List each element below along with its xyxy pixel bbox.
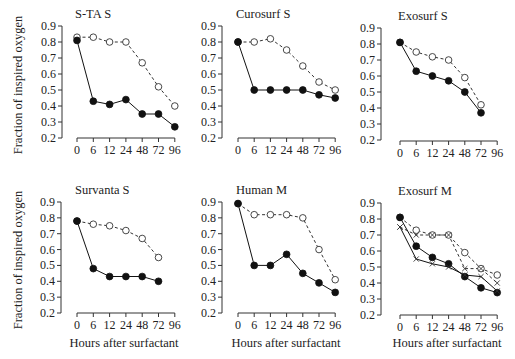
- y-tick-label: 0.9: [201, 195, 216, 209]
- x-tick-label: 96: [169, 318, 181, 332]
- data-point-filled: [299, 270, 306, 277]
- y-tick-label: 0.9: [201, 19, 216, 33]
- y-tick-label: 0.2: [201, 131, 216, 145]
- y-tick-label: 0.6: [360, 69, 375, 83]
- x-tick-label: 72: [475, 320, 487, 334]
- x-tick-label: 72: [313, 318, 325, 332]
- data-point-filled: [267, 87, 274, 94]
- x-tick-label: 96: [169, 143, 181, 157]
- y-tick-label: 0.7: [201, 51, 216, 65]
- y-tick-label: 0.2: [40, 306, 55, 320]
- panel-survanta-s: Survanta S0.90.80.70.60.50.40.30.2061224…: [40, 183, 181, 332]
- data-point-open: [429, 54, 436, 61]
- y-tick-label: 0.7: [360, 53, 375, 67]
- data-point-open: [155, 254, 162, 261]
- data-point-filled: [478, 284, 485, 291]
- data-point-filled: [123, 273, 130, 280]
- data-point-filled: [283, 251, 290, 258]
- panel-title: Curosurf S: [236, 7, 291, 21]
- panel-title: Exosurf M: [398, 184, 452, 198]
- data-point-filled: [397, 39, 404, 46]
- x-tick-label: 0: [74, 318, 80, 332]
- data-point-open: [332, 87, 339, 94]
- data-point-filled: [251, 87, 258, 94]
- y-tick-label: 0.5: [41, 83, 56, 97]
- data-point-open: [283, 47, 290, 54]
- x-tick-label: 24: [120, 143, 132, 157]
- data-point-open: [462, 74, 469, 81]
- y-tick-label: 0.3: [41, 115, 56, 129]
- y-tick-label: 0.9: [40, 195, 55, 209]
- x-tick-label: 0: [397, 146, 403, 160]
- x-tick-label: 96: [491, 146, 503, 160]
- data-point-open: [316, 246, 323, 253]
- y-tick-label: 0.4: [201, 99, 216, 113]
- data-point-open: [106, 222, 113, 229]
- data-point-open: [478, 102, 485, 109]
- data-point-open: [267, 36, 274, 43]
- data-point-open: [123, 39, 130, 46]
- y-tick-label: 0.9: [360, 21, 375, 35]
- data-point-open: [139, 235, 146, 242]
- x-tick-label: 24: [443, 146, 455, 160]
- y-tick-label: 0.6: [41, 67, 56, 81]
- x-tick-label: 48: [297, 318, 309, 332]
- data-point-filled: [139, 273, 146, 280]
- x-tick-label: 6: [90, 143, 96, 157]
- y-tick-label: 0.8: [41, 35, 56, 49]
- x-tick-label: 0: [74, 143, 80, 157]
- data-point-filled: [123, 96, 130, 103]
- x-tick-label: 48: [136, 143, 148, 157]
- data-point-open: [494, 272, 501, 279]
- data-point-filled: [461, 89, 468, 96]
- data-point-open: [106, 39, 113, 46]
- y-tick-label: 0.4: [40, 274, 55, 288]
- data-point-filled: [445, 77, 452, 84]
- data-point-filled: [283, 87, 290, 94]
- y-tick-label: 0.7: [201, 227, 216, 241]
- data-point-filled: [429, 254, 436, 261]
- series-line-open-dashed: [400, 42, 481, 104]
- x-tick-label: 12: [264, 143, 276, 157]
- y-tick-label: 0.5: [40, 258, 55, 272]
- y-tick-label: 0.9: [360, 196, 375, 210]
- data-point-open: [283, 211, 290, 218]
- data-point-filled: [316, 279, 323, 286]
- data-point-open: [172, 103, 179, 110]
- panel-title: Survanta S: [75, 183, 130, 197]
- data-point-open: [413, 49, 420, 56]
- x-tick-label: 12: [104, 318, 116, 332]
- x-tick-label: 6: [251, 143, 257, 157]
- y-tick-label: 0.2: [201, 306, 216, 320]
- data-point-filled: [155, 278, 162, 285]
- data-point-filled: [106, 101, 113, 108]
- y-tick-label: 0.4: [360, 276, 375, 290]
- data-point-filled: [251, 262, 258, 269]
- data-point-open: [155, 84, 162, 91]
- panel-title: Human M: [236, 183, 287, 197]
- data-point-filled: [413, 68, 420, 75]
- data-point-filled: [478, 109, 485, 116]
- y-tick-label: 0.7: [360, 228, 375, 242]
- series-line-filled-solid: [77, 221, 159, 281]
- x-axis-title-2: Hours after surfactant: [232, 336, 342, 350]
- y-tick-label: 0.5: [360, 85, 375, 99]
- y-tick-label: 0.6: [40, 243, 55, 257]
- series-line-filled-solid: [400, 42, 481, 112]
- data-point-filled: [397, 214, 404, 221]
- data-point-open: [300, 63, 307, 70]
- x-tick-label: 24: [443, 320, 455, 334]
- data-point-filled: [155, 111, 162, 118]
- data-point-filled: [74, 37, 81, 44]
- x-tick-label: 48: [297, 143, 309, 157]
- y-tick-label: 0.5: [201, 83, 216, 97]
- data-point-filled: [429, 73, 436, 80]
- x-tick-label: 12: [426, 320, 438, 334]
- data-point-open: [90, 221, 97, 228]
- data-point-filled: [235, 200, 242, 207]
- y-tick-label: 0.8: [40, 211, 55, 225]
- y-tick-label: 0.9: [41, 19, 56, 33]
- y-tick-label: 0.5: [201, 258, 216, 272]
- data-point-open: [251, 211, 258, 218]
- x-tick-label: 24: [281, 143, 293, 157]
